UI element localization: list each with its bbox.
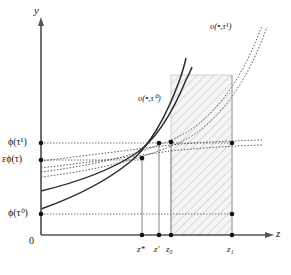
- y-axis-arrow-icon: [38, 17, 44, 26]
- marker-point: [230, 141, 235, 146]
- solid-curve-v-tau-1: [41, 58, 186, 209]
- curve-label-v-tau-0: υ(•,τ⁰): [138, 94, 161, 103]
- marker-point: [140, 156, 145, 161]
- marker-point: [230, 212, 235, 217]
- marker-point: [39, 141, 44, 146]
- marker-point: [157, 141, 162, 146]
- figure-container: y z 0 ϕ(τ¹) εϕ(τ) ϕ(τ⁰) z* z′ z₀ z₁ υ(•,…: [0, 0, 291, 275]
- marker-point: [140, 233, 145, 238]
- y-tick-label-phi-tau-0: ϕ(τ⁰): [8, 208, 28, 218]
- y-axis-label: y: [34, 5, 39, 16]
- x-tick-label-z-one: z₁: [227, 245, 234, 254]
- y-tick-label-epsilon-phi-tau: εϕ(τ): [2, 154, 22, 164]
- x-tick-label-z-prime: z′: [154, 245, 159, 254]
- marker-point: [230, 233, 235, 238]
- origin-label: 0: [29, 236, 34, 246]
- x-axis-label: z: [276, 228, 280, 239]
- marker-point: [39, 158, 44, 163]
- marker-point: [169, 233, 174, 238]
- x-tick-label-z-star: z*: [137, 245, 145, 254]
- hatched-region: [171, 75, 232, 235]
- x-tick-label-z-zero: z₀: [166, 245, 173, 254]
- marker-point: [39, 212, 44, 217]
- x-axis-arrow-icon: [265, 232, 274, 238]
- curve-label-v-tau-1: υ(•,τ¹): [210, 22, 231, 31]
- marker-point: [157, 233, 162, 238]
- marker-point: [169, 140, 174, 145]
- y-tick-label-phi-tau-1: ϕ(τ¹): [8, 137, 27, 147]
- plot-svg: [0, 0, 291, 275]
